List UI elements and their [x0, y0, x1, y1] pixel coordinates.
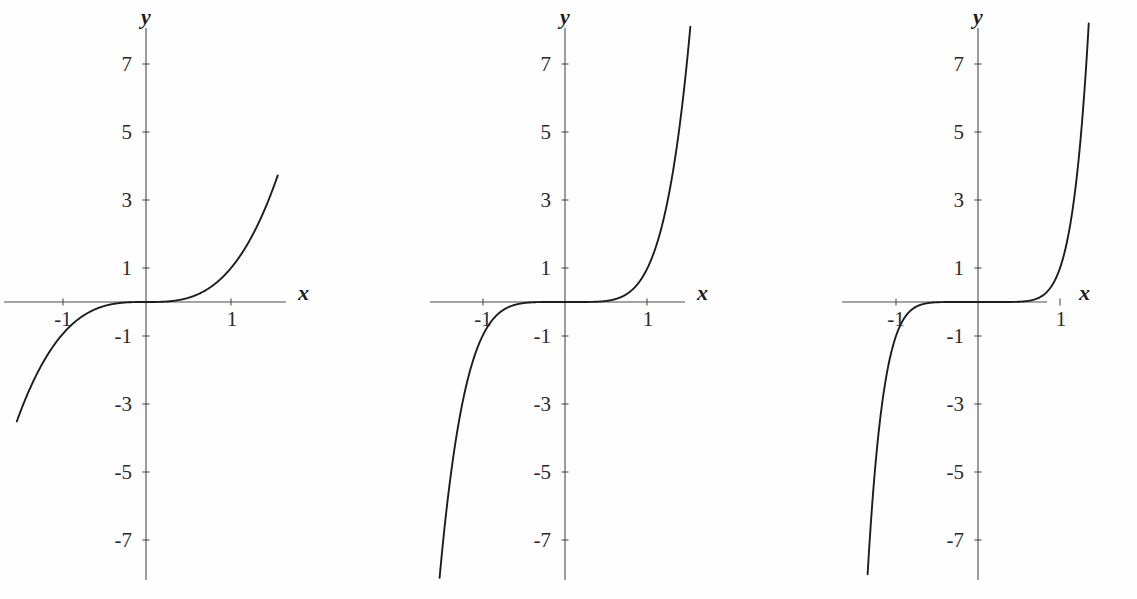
y-tick-label-m1: -1	[947, 324, 965, 348]
y-tick-label-m1: -1	[115, 324, 133, 348]
y-tick-label-7: 7	[954, 52, 965, 76]
y-tick-label-m3: -3	[947, 392, 965, 416]
y-tick-label-m3: -3	[115, 392, 133, 416]
x-tick-label-m1: -1	[474, 307, 492, 331]
y-tick-label-7: 7	[122, 52, 133, 76]
y-tick-label-5: 5	[954, 120, 965, 144]
y-tick-label-m1: -1	[534, 324, 552, 348]
y-tick-label-3: 3	[122, 188, 133, 212]
y-tick-label-3: 3	[954, 188, 965, 212]
y-axis-label-3: y	[970, 4, 983, 29]
y-tick-label-m7: -7	[947, 528, 965, 552]
y-axis-label-1: y	[138, 4, 151, 29]
x-axis-label-1: x	[297, 280, 309, 305]
x-tick-label-1: 1	[1056, 307, 1067, 331]
y-tick-label-m5: -5	[115, 460, 133, 484]
y-tick-label-m5: -5	[534, 460, 552, 484]
x-axis-label-2: x	[696, 280, 708, 305]
x-axis-label-3: x	[1078, 280, 1090, 305]
x-tick-label-1: 1	[227, 307, 238, 331]
y-axis-label-2: y	[557, 4, 570, 29]
plot-panel-2: 7 5 3 1 -1 -3 -5 -7 -1 1 x y	[380, 0, 760, 599]
y-tick-label-7: 7	[541, 52, 552, 76]
y-tick-label-1: 1	[541, 256, 552, 280]
plot-panel-3: 7 5 3 1 -1 -3 -5 -7 -1 1 x y	[757, 0, 1137, 599]
curve-1	[17, 175, 278, 421]
plot-svg-1: 7 5 3 1 -1 -3 -5 -7 -1 1 x y	[0, 0, 380, 599]
figure-canvas: 7 5 3 1 -1 -3 -5 -7 -1 1 x y	[0, 0, 1137, 599]
y-tick-label-3: 3	[541, 188, 552, 212]
plot-panel-1: 7 5 3 1 -1 -3 -5 -7 -1 1 x y	[0, 0, 380, 599]
y-tick-label-1: 1	[122, 256, 133, 280]
plot-svg-2: 7 5 3 1 -1 -3 -5 -7 -1 1 x y	[380, 0, 760, 599]
y-tick-label-5: 5	[541, 120, 552, 144]
plot-svg-3: 7 5 3 1 -1 -3 -5 -7 -1 1 x y	[757, 0, 1137, 599]
y-tick-label-1: 1	[954, 256, 965, 280]
x-tick-label-m1: -1	[887, 307, 905, 331]
y-tick-label-m7: -7	[115, 528, 133, 552]
y-tick-label-5: 5	[122, 120, 133, 144]
y-tick-label-m3: -3	[534, 392, 552, 416]
x-tick-label-1: 1	[643, 307, 654, 331]
y-tick-label-m5: -5	[947, 460, 965, 484]
y-tick-label-m7: -7	[534, 528, 552, 552]
x-tick-label-m1: -1	[54, 307, 72, 331]
